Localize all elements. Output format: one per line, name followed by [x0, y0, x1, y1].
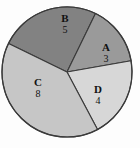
pie-chart-figure: A 3 B 5 C 8 D 4	[0, 0, 140, 148]
pie-chart-svg	[0, 0, 140, 148]
